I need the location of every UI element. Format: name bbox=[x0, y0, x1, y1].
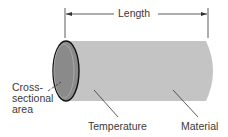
cross-section-label-line3: area bbox=[12, 104, 33, 115]
cylinder-body bbox=[66, 41, 213, 101]
material-label: Material bbox=[181, 121, 218, 132]
arrowhead-left-icon bbox=[66, 12, 72, 16]
arrowhead-right-icon bbox=[201, 12, 207, 16]
temperature-label: Temperature bbox=[88, 121, 147, 132]
cylinder-diagram bbox=[0, 0, 228, 137]
length-label: Length bbox=[116, 8, 152, 19]
cross-section-ellipse bbox=[53, 41, 79, 101]
